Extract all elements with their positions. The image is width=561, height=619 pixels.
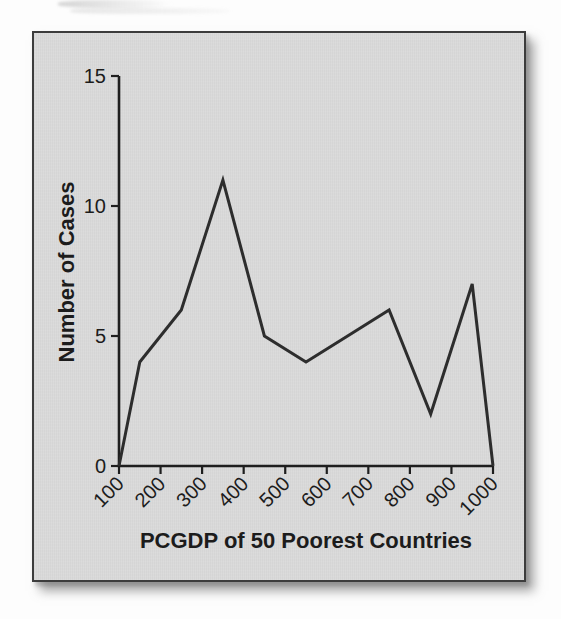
figure-panel: 1002003004005006007008009001000051015 Nu… xyxy=(32,31,526,582)
x-tick-label: 700 xyxy=(338,472,377,511)
scan-smudge-artifact-2 xyxy=(70,8,230,14)
y-tick-label: 10 xyxy=(84,195,106,217)
y-tick-label: 5 xyxy=(95,325,106,347)
x-tick-label: 800 xyxy=(380,472,419,511)
y-axis-title: Number of Cases xyxy=(54,182,80,363)
x-tick-label: 900 xyxy=(421,472,460,511)
x-tick-label: 100 xyxy=(89,472,128,511)
y-tick-label: 0 xyxy=(95,455,106,477)
scan-smudge-artifact xyxy=(58,0,173,8)
page-background: { "figure": { "panel_bg": "#dadada", "bo… xyxy=(0,0,561,619)
frequency-polygon-chart: 1002003004005006007008009001000051015 xyxy=(34,33,524,580)
x-tick-label: 300 xyxy=(172,472,211,511)
x-axis-title: PCGDP of 50 Poorest Countries xyxy=(140,528,472,554)
x-tick-label: 200 xyxy=(130,472,169,511)
x-tick-label: 400 xyxy=(213,472,252,511)
axes-line xyxy=(119,76,493,466)
x-tick-label: 1000 xyxy=(455,472,502,519)
x-tick-label: 600 xyxy=(296,472,335,511)
x-tick-label: 500 xyxy=(255,472,294,511)
y-tick-label: 15 xyxy=(84,65,106,87)
data-polyline xyxy=(119,180,493,466)
